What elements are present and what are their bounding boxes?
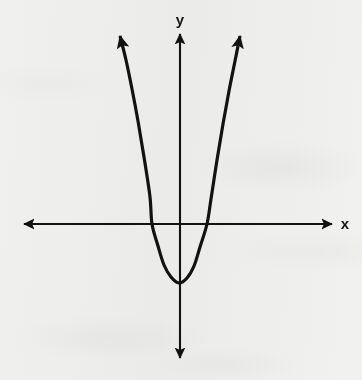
x-axis-label: x xyxy=(341,215,350,232)
graph-figure: y x xyxy=(0,0,362,380)
y-axis-label: y xyxy=(176,11,185,28)
coordinate-plane-svg: y x xyxy=(0,0,362,380)
